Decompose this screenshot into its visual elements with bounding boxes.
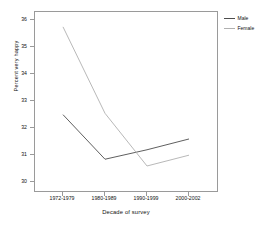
legend-swatch [224,18,235,19]
y-tick-label: 31 [11,152,27,157]
legend-swatch [224,28,235,29]
y-tick-label: 32 [11,125,27,130]
x-axis-title: Decade of survey [34,209,218,215]
y-tick-label: 36 [11,17,27,22]
y-tick-label: 35 [11,44,27,49]
legend-item: Female [224,24,263,32]
y-axis-title: Percent very happy [13,6,19,126]
x-tick-label: 1972-1979 [39,196,85,201]
y-tick-label: 33 [11,98,27,103]
legend-item: Male [224,14,263,22]
x-tick-label: 1990-1999 [123,196,169,201]
plot-area [34,11,218,192]
series-line-male [63,115,189,160]
plot-lines [35,12,219,193]
chart-legend: MaleFemale [224,14,263,34]
y-tick-label: 30 [11,179,27,184]
legend-label: Female [238,26,255,31]
legend-label: Male [238,16,249,21]
x-tick-label: 2000-2002 [165,196,211,201]
chart-figure: Percent very happy 30313233343536 1972-1… [0,0,263,225]
y-tick-label: 34 [11,71,27,76]
x-tick-label: 1980-1989 [81,196,127,201]
series-line-female [63,27,189,166]
